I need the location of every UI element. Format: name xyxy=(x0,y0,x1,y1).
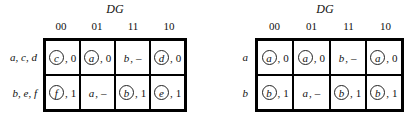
table-cell: a,0 xyxy=(257,40,293,75)
output-value: 0 xyxy=(283,52,289,64)
stable-state-circle: b xyxy=(262,85,277,100)
stable-state-circle: b xyxy=(334,85,349,100)
table-cell: b,1 xyxy=(366,75,402,110)
separator: , xyxy=(170,52,173,64)
stable-state-circle: b xyxy=(119,85,134,100)
stable-state-circle: e xyxy=(154,85,169,100)
row-label-bef: b, e, f xyxy=(0,87,37,99)
column-header-01: 01 xyxy=(79,20,115,32)
separator: , xyxy=(314,52,317,64)
column-variable-label: DG xyxy=(95,2,135,17)
output-value: 0 xyxy=(71,52,77,64)
karnaugh-grid-left: c,0a,0b,–d,0f,1a,–b,1e,1 xyxy=(43,38,187,112)
table-cell: f,1 xyxy=(45,75,80,110)
output-value: 1 xyxy=(141,87,147,99)
stable-state-circle: c xyxy=(49,50,64,65)
next-state: a xyxy=(303,87,309,99)
table-cell: a,0 xyxy=(293,40,329,75)
row-label-b: b xyxy=(230,87,248,99)
column-header-01: 01 xyxy=(293,20,330,32)
column-header-00: 00 xyxy=(43,20,79,32)
output-value: – xyxy=(101,87,107,99)
row-label-acd: a, c, d xyxy=(0,51,37,63)
separator: , xyxy=(135,87,138,99)
output-value: 0 xyxy=(392,52,398,64)
column-header-11: 11 xyxy=(330,20,367,32)
table-cell: a,– xyxy=(80,75,115,110)
output-value: 1 xyxy=(356,87,362,99)
table-cell: a,0 xyxy=(80,40,115,75)
table-cell: e,1 xyxy=(150,75,185,110)
separator: , xyxy=(65,87,68,99)
column-header-00: 00 xyxy=(256,20,293,32)
table-cell: b,– xyxy=(330,40,366,75)
separator: , xyxy=(309,87,312,99)
separator: , xyxy=(278,87,281,99)
output-value: 1 xyxy=(283,87,289,99)
output-value: – xyxy=(136,52,142,64)
stable-state-circle: a xyxy=(84,50,99,65)
row-label-a: a xyxy=(230,51,248,63)
separator: , xyxy=(130,52,133,64)
stable-state-circle: a xyxy=(298,50,313,65)
column-header-11: 11 xyxy=(115,20,151,32)
output-value: 1 xyxy=(392,87,398,99)
table-cell: b,1 xyxy=(115,75,150,110)
next-state: b xyxy=(124,52,130,64)
karnaugh-grid-right: a,0a,0b,–a,0b,1a,–b,1b,1 xyxy=(255,38,404,112)
output-value: 1 xyxy=(176,87,182,99)
output-value: 1 xyxy=(71,87,77,99)
stable-state-circle: a xyxy=(370,50,385,65)
output-value: – xyxy=(351,52,357,64)
table-cell: b,– xyxy=(115,40,150,75)
separator: , xyxy=(65,52,68,64)
separator: , xyxy=(100,52,103,64)
next-state: a xyxy=(89,87,95,99)
table-cell: c,0 xyxy=(45,40,80,75)
separator: , xyxy=(170,87,173,99)
separator: , xyxy=(345,52,348,64)
stable-state-circle: a xyxy=(262,50,277,65)
output-value: 0 xyxy=(106,52,112,64)
output-value: 0 xyxy=(320,52,326,64)
separator: , xyxy=(350,87,353,99)
separator: , xyxy=(386,52,389,64)
output-value: 0 xyxy=(176,52,182,64)
table-cell: d,0 xyxy=(150,40,185,75)
table-cell: a,0 xyxy=(366,40,402,75)
separator: , xyxy=(278,52,281,64)
column-variable-label: DG xyxy=(305,2,345,17)
stable-state-circle: b xyxy=(370,85,385,100)
table-cell: b,1 xyxy=(330,75,366,110)
table-cell: a,– xyxy=(293,75,329,110)
column-header-10: 10 xyxy=(367,20,404,32)
stable-state-circle: d xyxy=(154,50,169,65)
next-state: b xyxy=(339,52,345,64)
column-header-10: 10 xyxy=(151,20,187,32)
table-cell: b,1 xyxy=(257,75,293,110)
output-value: – xyxy=(315,87,321,99)
stable-state-circle: f xyxy=(49,85,64,100)
separator: , xyxy=(95,87,98,99)
separator: , xyxy=(386,87,389,99)
